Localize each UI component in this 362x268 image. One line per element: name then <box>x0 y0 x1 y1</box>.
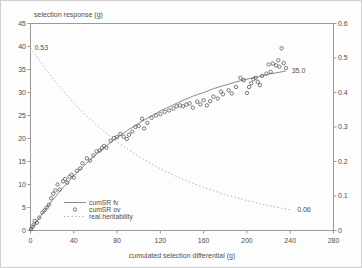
scatter-point <box>221 93 224 96</box>
scatter-point <box>188 102 191 105</box>
scatter-point <box>95 150 98 153</box>
scatter-point <box>109 139 112 142</box>
x-tick-label: 0 <box>29 237 33 244</box>
scatter-point <box>271 62 274 65</box>
scatter-point <box>245 91 248 94</box>
y-left-tick-label: 40 <box>18 43 26 50</box>
scatter-point <box>167 109 170 112</box>
scatter-point <box>172 107 175 110</box>
x-tick-label: 40 <box>70 237 78 244</box>
scatter-point <box>196 100 199 103</box>
scatter-point <box>216 97 219 100</box>
y-left-tick-label: 0 <box>22 227 26 234</box>
scatter-point <box>137 124 140 127</box>
scatter-point <box>202 99 205 102</box>
y-right-tick-label: 0.2 <box>338 158 348 165</box>
scatter-point <box>234 85 237 88</box>
scatter-point <box>68 175 71 178</box>
scatter-point <box>75 169 78 172</box>
scatter-point <box>181 105 184 108</box>
scatter-point <box>267 63 270 66</box>
plot-frame <box>31 24 334 231</box>
y-right-tick-label: 0.3 <box>338 123 348 130</box>
x-axis-title: cumulated selection differential (g) <box>129 252 235 260</box>
x-tick-label: 200 <box>241 237 253 244</box>
scatter-point <box>178 104 181 107</box>
y-left-tick-label: 30 <box>18 89 26 96</box>
y-right-tick-label: 0.1 <box>338 192 348 199</box>
scatter-point <box>208 100 211 103</box>
scatter-point <box>199 103 202 106</box>
scatter-point <box>185 103 188 106</box>
scatter-point <box>163 110 166 113</box>
y-left-tick-label: 45 <box>18 20 26 27</box>
scatter-point <box>49 197 52 200</box>
scatter-point <box>56 183 59 186</box>
scatter-point <box>63 177 66 180</box>
scatter-point <box>85 157 88 160</box>
scatter-point <box>277 59 280 62</box>
x-tick-label: 240 <box>284 237 296 244</box>
scatter-point <box>269 70 272 73</box>
scatter-point <box>142 127 145 130</box>
scatter-point <box>274 64 277 67</box>
x-tick-label: 120 <box>155 237 167 244</box>
x-tick-label: 160 <box>198 237 210 244</box>
legend-marker-circle <box>73 208 76 211</box>
scatter-point <box>131 130 134 133</box>
scatter-point <box>227 89 230 92</box>
scatter-point <box>212 95 215 98</box>
x-tick-label: 280 <box>328 237 340 244</box>
scatter-point <box>52 192 55 195</box>
y-left-tick-label: 35 <box>18 66 26 73</box>
scatter-point <box>146 121 149 124</box>
scatter-point <box>205 104 208 107</box>
legend-label: cumSR ov <box>89 206 121 213</box>
scatter-point <box>282 61 285 64</box>
y-left-tick-label: 25 <box>18 112 26 119</box>
scatter-point <box>278 65 281 68</box>
scatter-point <box>122 135 125 138</box>
y-left-tick-label: 10 <box>18 181 26 188</box>
legend-label: real.heritability <box>89 213 133 221</box>
scatter-point <box>250 82 253 85</box>
y-right-tick-label: 0.5 <box>338 54 348 61</box>
scatter-point <box>258 83 261 86</box>
plot-area: 05101520253035404500.10.20.30.40.50.6040… <box>18 20 348 244</box>
real-heritability-line <box>31 48 291 210</box>
scatter-point <box>81 162 84 165</box>
annotation-053: 0.53 <box>34 44 48 51</box>
chart-window: selection response (g) cumulated selecti… <box>0 0 362 268</box>
scatter-point <box>239 76 242 79</box>
scatter-point <box>256 80 259 83</box>
selection-response-chart: selection response (g) cumulated selecti… <box>1 1 362 268</box>
scatter-point <box>230 92 233 95</box>
scatter-point <box>247 85 250 88</box>
y-left-tick-label: 5 <box>22 204 26 211</box>
scatter-point <box>140 117 143 120</box>
scatter-point <box>154 114 157 117</box>
scatter-point <box>284 66 287 69</box>
scatter-point <box>33 219 36 222</box>
scatter-point <box>280 47 283 50</box>
scatter-point <box>125 137 128 140</box>
scatter-point <box>191 106 194 109</box>
scatter-point <box>150 116 153 119</box>
scatter-point <box>159 112 162 115</box>
y-right-tick-label: 0.4 <box>338 89 348 96</box>
scatter-point <box>54 189 57 192</box>
y-left-tick-label: 15 <box>18 158 26 165</box>
x-tick-label: 80 <box>113 237 121 244</box>
y-right-tick-label: 0.6 <box>338 20 348 27</box>
annotation-350: 35.0 <box>292 67 306 74</box>
y-left-tick-label: 20 <box>18 135 26 142</box>
y-right-tick-label: 0 <box>338 227 342 234</box>
annotation-006: 0.06 <box>297 206 311 213</box>
scatter-point <box>127 133 130 136</box>
y-axis-title: selection response (g) <box>34 11 103 19</box>
legend-label: cumSR fv <box>89 199 119 206</box>
